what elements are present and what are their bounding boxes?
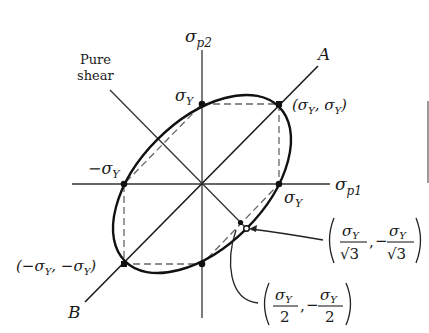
neg-sigma-y-label: −σY — [88, 159, 121, 181]
point-corner-bottom-left — [121, 261, 127, 267]
yield-criteria-diagram: σp2 σp1 A B Pure shear σY σY −σY (σY, σY… — [0, 0, 429, 333]
sigma-p2-label: σp2 — [185, 26, 212, 50]
point-right — [276, 181, 283, 188]
pure-shear-label-line2: shear — [77, 68, 114, 83]
frac1-num: σY — [275, 286, 293, 305]
point-bottom — [199, 261, 206, 268]
left-paren — [265, 283, 270, 325]
von-mises-callout: σY √3 , − σY √3 — [330, 218, 421, 263]
neg-sign: − — [306, 296, 319, 314]
frac1-den: √3 — [340, 245, 359, 263]
frac2-den: 2 — [325, 308, 335, 326]
point-corner-top-right — [276, 101, 282, 107]
right-paren — [416, 218, 421, 263]
sigma-y-right-label: σY — [284, 188, 304, 210]
corner-bottom-left-label: (−σY, −σY) — [16, 257, 96, 277]
sigma-p1-label: σp1 — [335, 174, 362, 198]
neg-sign: − — [375, 232, 388, 250]
sigma-y-top-label: σY — [175, 86, 195, 108]
point-tresca-shear — [238, 220, 243, 225]
callout-arrow-von-mises — [251, 229, 323, 240]
point-von-mises-shear — [244, 226, 250, 232]
point-left — [121, 181, 128, 188]
comma: , — [300, 297, 305, 315]
frac1-num: σY — [342, 222, 360, 241]
comma: , — [369, 233, 374, 251]
tresca-callout: σY 2 , − σY 2 — [265, 283, 351, 326]
frac2-den: √3 — [387, 245, 406, 263]
pure-shear-label-line1: Pure — [80, 52, 111, 67]
corner-top-right-label: (σY, σY) — [292, 96, 347, 116]
frac1-den: 2 — [280, 308, 290, 326]
left-paren — [330, 218, 335, 263]
right-paren — [346, 283, 351, 325]
frac2-num: σY — [389, 222, 407, 241]
point-top — [199, 101, 206, 108]
label-a: A — [316, 44, 330, 64]
frac2-num: σY — [320, 286, 338, 305]
label-b: B — [67, 302, 81, 322]
